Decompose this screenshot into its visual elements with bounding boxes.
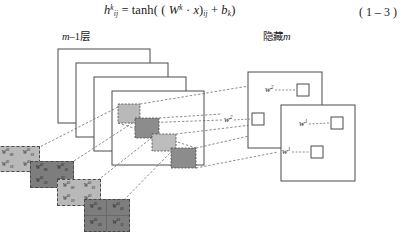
hidden-box-front bbox=[281, 105, 355, 181]
hidden-unit-w1-upper-square bbox=[331, 117, 343, 129]
hidden-unit-w2-lower-label: w2 bbox=[224, 114, 233, 124]
weight-kernel-4-cell-2: W0110 bbox=[85, 216, 107, 232]
receptive-patch-4 bbox=[171, 148, 196, 168]
link-patch4-to-w1-lower bbox=[196, 152, 278, 168]
weight-kernel-4-cell-3: W0111 bbox=[107, 216, 129, 232]
weight-kernel-1-cell-0: W0100 bbox=[0, 147, 18, 159]
weight-kernel-2-cell-0: W0100 bbox=[31, 162, 52, 175]
weight-kernel-2-cell-2: W0110 bbox=[31, 175, 52, 188]
weight-kernel-2-cell-1: W0101 bbox=[52, 162, 73, 175]
weight-kernel-4: W0100W0101W0110W0111 bbox=[84, 199, 130, 232]
weight-kernel-4-cell-0: W0100 bbox=[85, 200, 107, 216]
hidden-unit-w2-upper-label-superscript: 2 bbox=[271, 84, 274, 90]
hidden-unit-w1-upper-label-superscript: 1 bbox=[305, 118, 308, 124]
hidden-unit-w1-lower-label-superscript: 1 bbox=[288, 146, 291, 152]
hidden-unit-w2-upper-square bbox=[297, 84, 309, 96]
weight-kernel-1-cell-2: W0110 bbox=[0, 159, 18, 171]
hidden-unit-w2-lower-square bbox=[252, 113, 264, 125]
weight-kernel-3-cell-0: W0100 bbox=[58, 180, 79, 193]
weight-kernel-3-cell-1: W0101 bbox=[79, 180, 100, 193]
hidden-unit-w1-lower-square bbox=[311, 146, 323, 158]
hidden-unit-w2-lower-label-superscript: 2 bbox=[230, 114, 233, 120]
weight-kernel-3-cell-2: W0110 bbox=[58, 193, 79, 206]
weight-kernel-1-cell-1: W0101 bbox=[18, 147, 39, 159]
weight-kernel-4-cell-1: W0101 bbox=[107, 200, 129, 216]
figure-canvas: hkij = tanh( ( Wk · x)ij + bk) ( 1 – 3 )… bbox=[0, 0, 409, 240]
